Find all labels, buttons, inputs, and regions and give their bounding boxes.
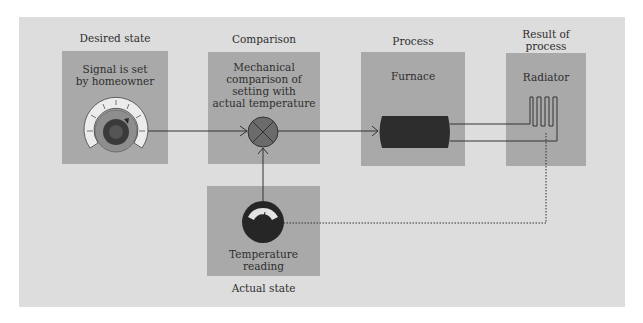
comparator-icon	[248, 117, 278, 147]
furnace-icon	[380, 116, 451, 148]
connector-desired-to-comparison	[148, 126, 247, 136]
connector-furnace-to-radiator	[450, 97, 557, 141]
connector-actual-to-comparison	[258, 148, 268, 201]
thermostat-dial-icon	[84, 97, 148, 152]
connector-comparison-to-process	[278, 126, 378, 136]
diagram-graphics	[0, 0, 643, 323]
thermometer-gauge-icon	[242, 201, 284, 243]
